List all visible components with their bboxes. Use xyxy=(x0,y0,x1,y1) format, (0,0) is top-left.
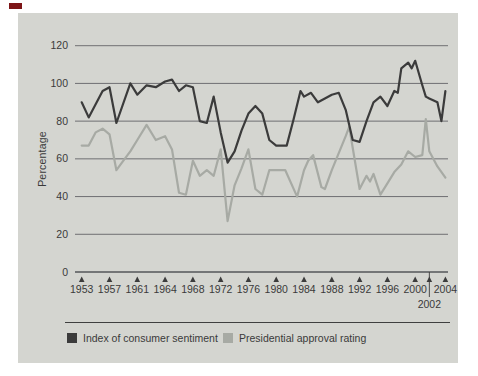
approval-rating-swatch-icon xyxy=(223,333,233,343)
y-tick-label-100: 100 xyxy=(50,77,68,89)
x-tick-arrow-2004 xyxy=(443,277,449,283)
x-tick-label-1957: 1957 xyxy=(98,283,122,295)
x-tick-arrow-1988 xyxy=(329,277,335,283)
x-tick-label-1976: 1976 xyxy=(237,283,261,295)
legend-label-approval-rating: Presidential approval rating xyxy=(239,332,366,344)
x-tick-label-2004: 2004 xyxy=(434,283,458,295)
consumer-sentiment-swatch-icon xyxy=(67,333,77,343)
x-tick-label-2000: 2000 xyxy=(403,283,427,295)
x-tick-arrow-1968 xyxy=(190,277,196,283)
x-tick-arrow-1964 xyxy=(162,277,168,283)
x-tick-label-1988: 1988 xyxy=(320,283,344,295)
y-tick-label-60: 60 xyxy=(56,152,68,164)
y-tick-label-20: 20 xyxy=(56,228,68,240)
x-tick-label-1953: 1953 xyxy=(70,283,94,295)
line-chart: 0204060801001201953195719611964196819721… xyxy=(0,0,478,376)
x-tick-arrow-1957 xyxy=(107,277,113,283)
x-tick-arrow-2000 xyxy=(412,277,418,283)
y-tick-label-120: 120 xyxy=(50,39,68,51)
figure-canvas: 0204060801001201953195719611964196819721… xyxy=(0,0,478,376)
y-tick-label-0: 0 xyxy=(62,266,68,278)
y-tick-label-40: 40 xyxy=(56,190,68,202)
approval-rating-line xyxy=(82,119,446,221)
consumer-sentiment-line xyxy=(82,61,446,163)
legend-label-consumer-sentiment: Index of consumer sentiment xyxy=(83,332,218,344)
x-tick-label-1964: 1964 xyxy=(153,283,177,295)
x-tick-arrow-1984 xyxy=(301,277,307,283)
x-tick-label-1980: 1980 xyxy=(265,283,289,295)
x-tick-arrow-1992 xyxy=(357,277,363,283)
x-tick-label-1961: 1961 xyxy=(126,283,150,295)
x-tick-label-1972: 1972 xyxy=(209,283,233,295)
x-tick-label-1996: 1996 xyxy=(376,283,400,295)
x-tick-arrow-1996 xyxy=(385,277,391,283)
legend-item-approval-rating: Presidential approval rating xyxy=(223,332,366,344)
x-tick-arrow-1953 xyxy=(79,277,85,283)
x-tick-arrow-1980 xyxy=(273,277,279,283)
x-tick-arrow-1972 xyxy=(218,277,224,283)
x-tick-label-1968: 1968 xyxy=(181,283,205,295)
legend-divider xyxy=(65,322,450,323)
x-tick-label-1984: 1984 xyxy=(292,283,316,295)
x-tick-arrow-1976 xyxy=(246,277,252,283)
y-tick-label-80: 80 xyxy=(56,115,68,127)
legend-item-consumer-sentiment: Index of consumer sentiment xyxy=(67,332,218,344)
x-tick-arrow-1961 xyxy=(134,277,140,283)
x-tick-label-1992: 1992 xyxy=(348,283,372,295)
y-axis-title: Percentage xyxy=(36,131,48,187)
x-tick-label-2002: 2002 xyxy=(418,298,442,310)
